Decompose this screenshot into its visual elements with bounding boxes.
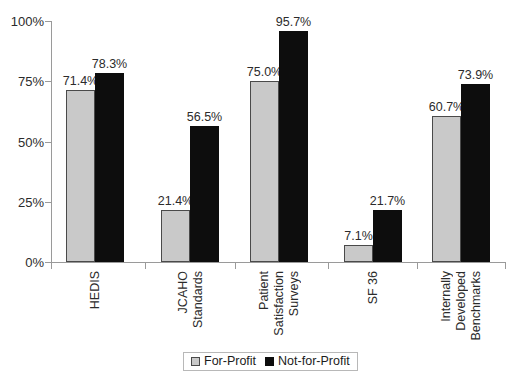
legend-item: Not-for-Profit xyxy=(265,355,350,368)
bar-for-profit xyxy=(250,81,279,262)
y-axis-tick-label-wrap: 50% xyxy=(0,136,44,149)
legend-swatch-black xyxy=(265,357,274,366)
legend-label: For-Profit xyxy=(204,355,256,368)
x-axis-category-label: HEDIS xyxy=(65,271,125,371)
x-axis-tick xyxy=(417,262,418,269)
bar-not-for-profit xyxy=(279,31,308,262)
x-axis-category-label-line: Patient xyxy=(257,271,271,310)
bar-value-label: 73.9% xyxy=(453,69,499,82)
x-axis-line xyxy=(51,262,505,263)
bar-for-profit xyxy=(161,210,190,262)
bar-for-profit xyxy=(344,245,373,262)
bar-not-for-profit xyxy=(95,73,124,262)
x-axis-category-label-line: Standards xyxy=(191,271,205,328)
y-axis-tick-label: 75% xyxy=(2,75,44,88)
x-axis-category-label-line: Internally xyxy=(439,271,453,322)
x-axis-category-label-line: Benchmarks xyxy=(469,271,483,340)
legend-label: Not-for-Profit xyxy=(278,355,350,368)
y-axis-line xyxy=(51,21,52,263)
y-axis-tick-label-wrap: 25% xyxy=(0,196,44,209)
bar-not-for-profit xyxy=(373,210,402,262)
bar-value-label: 21.7% xyxy=(365,195,411,208)
bar-for-profit xyxy=(66,90,95,262)
bar-for-profit xyxy=(432,116,461,262)
y-axis-tick-label-wrap: 75% xyxy=(0,75,44,88)
x-axis-tick xyxy=(235,262,236,269)
y-axis-tick-label: 50% xyxy=(2,136,44,149)
x-axis-category-label-line: SF 36 xyxy=(366,271,380,304)
y-axis-tick xyxy=(45,21,51,22)
y-axis-tick-label: 25% xyxy=(2,196,44,209)
x-axis-tick xyxy=(328,262,329,269)
y-axis-tick xyxy=(45,202,51,203)
bar-value-label: 95.7% xyxy=(271,16,317,29)
y-axis-tick xyxy=(45,142,51,143)
bar-value-label: 78.3% xyxy=(87,58,133,71)
chart-legend: For-ProfitNot-for-Profit xyxy=(183,352,358,371)
x-axis-category-label-line: Satisfaction xyxy=(272,271,286,336)
y-axis-tick xyxy=(45,81,51,82)
x-axis-tick xyxy=(145,262,146,269)
x-axis-category-label-line: Surveys xyxy=(287,271,301,316)
y-axis-tick-label: 100% xyxy=(2,15,44,28)
x-axis-category-label-line: HEDIS xyxy=(88,271,102,309)
x-axis-category-label: InternallyDevelopedBenchmarks xyxy=(431,271,491,371)
y-axis-tick-label: 0% xyxy=(2,256,44,269)
x-axis-tick xyxy=(505,262,506,269)
legend-item: For-Profit xyxy=(191,355,256,368)
y-axis-tick-label-wrap: 100% xyxy=(0,15,44,28)
x-axis-tick xyxy=(51,262,52,269)
bar-value-label: 56.5% xyxy=(182,111,228,124)
bar-not-for-profit xyxy=(190,126,219,262)
x-axis-category-label-line: Developed xyxy=(454,271,468,331)
x-axis-category-label-line: JCAHO xyxy=(176,271,190,313)
legend-swatch-gray xyxy=(191,357,200,366)
bar-not-for-profit xyxy=(461,84,490,262)
y-axis-tick-label-wrap: 0% xyxy=(0,256,44,269)
bar-chart: 0%25%50%75%100% 71.4%78.3%21.4%56.5%75.0… xyxy=(0,0,516,374)
